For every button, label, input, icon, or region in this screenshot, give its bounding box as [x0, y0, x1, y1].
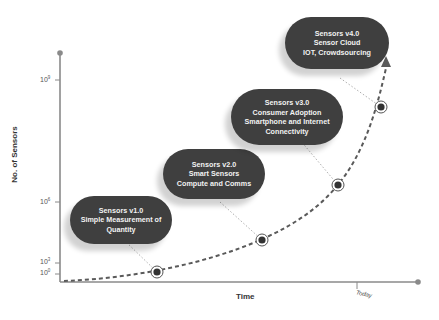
- stage-pill-v1: Sensors v1.0 Simple Measurement of Quant…: [70, 196, 172, 244]
- stage-desc: Compute and Comms: [177, 179, 251, 189]
- stage-desc: Quantity: [106, 225, 135, 235]
- y-axis-label: No. of Sensors: [10, 126, 19, 182]
- stage-title: Sensors v2.0: [192, 160, 236, 170]
- x-axis-end-dot: [415, 279, 421, 285]
- stage-pill-v3: Sensors v3.0 Consumer Adoption Smartphon…: [231, 89, 343, 145]
- stage-desc: Smartphone and Internet: [244, 117, 329, 127]
- sensor-evolution-diagram: 109 106 103 100 No. of Sensors Time Toda…: [0, 0, 439, 320]
- stage-desc: Sensor Cloud: [314, 38, 361, 48]
- stage-desc: Smart Sensors: [189, 169, 240, 179]
- y-tick-label: 106: [40, 197, 50, 205]
- y-axis-end-dot: [57, 50, 63, 56]
- stage-desc: IOT, Crowdsourcing: [303, 48, 371, 58]
- y-tick-label: 103: [40, 257, 50, 265]
- stage-pill-v4: Sensors v4.0 Sensor Cloud IOT, Crowdsour…: [285, 17, 389, 69]
- stage-title: Sensors v3.0: [265, 98, 309, 108]
- stage-pill-v2: Sensors v2.0 Smart Sensors Compute and C…: [163, 149, 265, 199]
- y-tick-label: 109: [40, 75, 50, 83]
- stage-title: Sensors v4.0: [315, 29, 359, 39]
- stage-desc: Connectivity: [265, 127, 308, 137]
- x-axis-label: Time: [236, 292, 255, 301]
- stage-title: Sensors v1.0: [99, 206, 143, 216]
- stage-desc: Simple Measurement of: [81, 215, 162, 225]
- stage-desc: Consumer Adoption: [253, 108, 322, 118]
- y-tick-label: 100: [40, 268, 50, 276]
